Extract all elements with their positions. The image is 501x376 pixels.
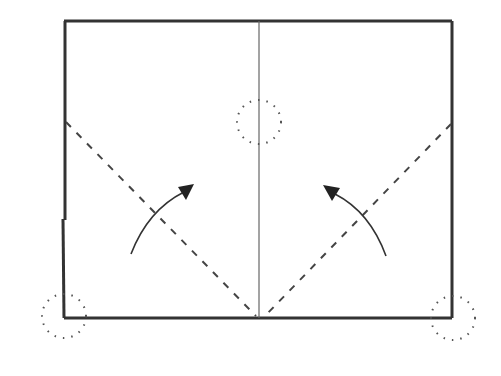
paper-outline xyxy=(63,21,452,318)
diagram-canvas xyxy=(0,0,501,376)
right-diagonal-fold-line xyxy=(265,124,451,316)
left-diagonal-fold-line xyxy=(66,122,256,316)
folding-diagram xyxy=(0,0,501,376)
